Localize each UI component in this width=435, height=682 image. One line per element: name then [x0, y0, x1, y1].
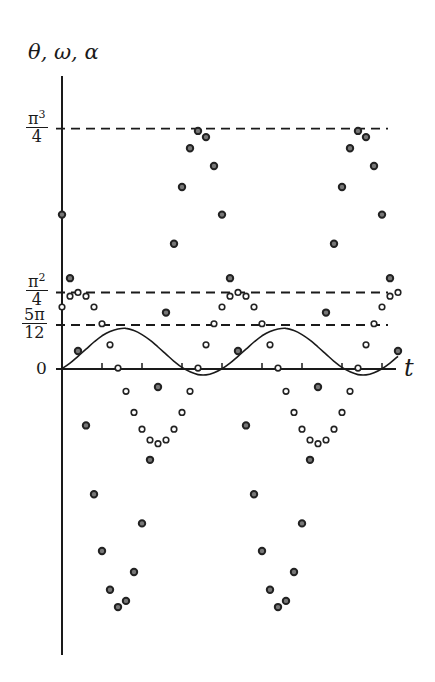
omega-point: [147, 437, 153, 443]
alpha-point: [195, 128, 201, 134]
alpha-point: [211, 163, 217, 169]
alpha-point: [123, 598, 129, 604]
alpha-point: [147, 457, 153, 463]
omega-point: [171, 426, 177, 432]
omega-point: [251, 304, 257, 310]
omega-point: [323, 437, 329, 443]
omega-point: [115, 365, 121, 371]
alpha-point: [315, 384, 321, 390]
omega-point: [371, 321, 377, 327]
alpha-point: [243, 422, 249, 428]
y-tick-5pi-over-12: 5π12: [22, 306, 47, 341]
omega-point: [235, 290, 241, 296]
alpha-point: [371, 163, 377, 169]
alpha-point: [259, 548, 265, 554]
omega-point: [219, 304, 225, 310]
alpha-point: [235, 348, 241, 354]
y-tick-pi-squared-over-4: π24: [26, 273, 48, 308]
y-tick-pi-cubed-over-4: π34: [26, 110, 48, 145]
omega-point: [75, 290, 81, 296]
alpha-point: [67, 275, 73, 281]
alpha-point: [291, 569, 297, 575]
omega-point: [179, 410, 185, 416]
omega-point: [395, 290, 401, 296]
alpha-point: [91, 491, 97, 497]
omega-point: [203, 342, 209, 348]
alpha-point: [283, 598, 289, 604]
alpha-point: [83, 422, 89, 428]
alpha-point: [307, 457, 313, 463]
alpha-point: [163, 309, 169, 315]
alpha-point: [275, 604, 281, 610]
alpha-point: [99, 548, 105, 554]
alpha-point: [379, 211, 385, 217]
alpha-point: [171, 241, 177, 247]
alpha-point: [331, 241, 337, 247]
alpha-point: [387, 275, 393, 281]
y-tick-zero: 0: [36, 358, 47, 378]
alpha-point: [179, 184, 185, 190]
omega-point: [243, 293, 249, 299]
omega-point: [339, 410, 345, 416]
omega-point: [211, 321, 217, 327]
omega-point: [379, 304, 385, 310]
alpha-point: [267, 587, 273, 593]
alpha-point: [75, 348, 81, 354]
omega-point: [123, 389, 129, 395]
alpha-point: [203, 134, 209, 140]
omega-point: [259, 321, 265, 327]
omega-point: [291, 410, 297, 416]
alpha-point: [363, 134, 369, 140]
omega-point: [155, 441, 161, 447]
omega-point: [195, 365, 201, 371]
omega-point: [99, 321, 105, 327]
alpha-point: [131, 569, 137, 575]
omega-point: [315, 441, 321, 447]
alpha-point: [299, 520, 305, 526]
alpha-point: [347, 145, 353, 151]
alpha-point: [227, 275, 233, 281]
omega-point: [107, 342, 113, 348]
omega-point: [131, 410, 137, 416]
omega-point: [363, 342, 369, 348]
reference-dashed-lines: [56, 129, 388, 325]
omega-point: [59, 304, 65, 310]
alpha-point: [187, 145, 193, 151]
alpha-point: [115, 604, 121, 610]
alpha-point: [139, 520, 145, 526]
omega-point: [163, 437, 169, 443]
alpha-point: [355, 128, 361, 134]
omega-point: [227, 293, 233, 299]
alpha-point: [395, 348, 401, 354]
y-axis-label: θ, ω, α: [28, 40, 99, 64]
omega-point: [67, 293, 73, 299]
x-axis-label: t: [404, 354, 414, 382]
omega-point: [139, 426, 145, 432]
omega-point: [307, 437, 313, 443]
plot-area: [0, 0, 435, 682]
omega-point: [267, 342, 273, 348]
omega-point: [187, 389, 193, 395]
omega-point: [299, 426, 305, 432]
alpha-point: [59, 211, 65, 217]
alpha-point: [107, 587, 113, 593]
omega-point: [83, 293, 89, 299]
omega-point: [347, 389, 353, 395]
omega-point: [275, 365, 281, 371]
omega-point: [355, 365, 361, 371]
alpha-point: [339, 184, 345, 190]
alpha-point: [323, 309, 329, 315]
omega-point: [387, 293, 393, 299]
alpha-point: [155, 384, 161, 390]
omega-point: [283, 389, 289, 395]
alpha-point: [219, 211, 225, 217]
omega-point: [331, 426, 337, 432]
omega-point: [91, 304, 97, 310]
alpha-point: [251, 491, 257, 497]
